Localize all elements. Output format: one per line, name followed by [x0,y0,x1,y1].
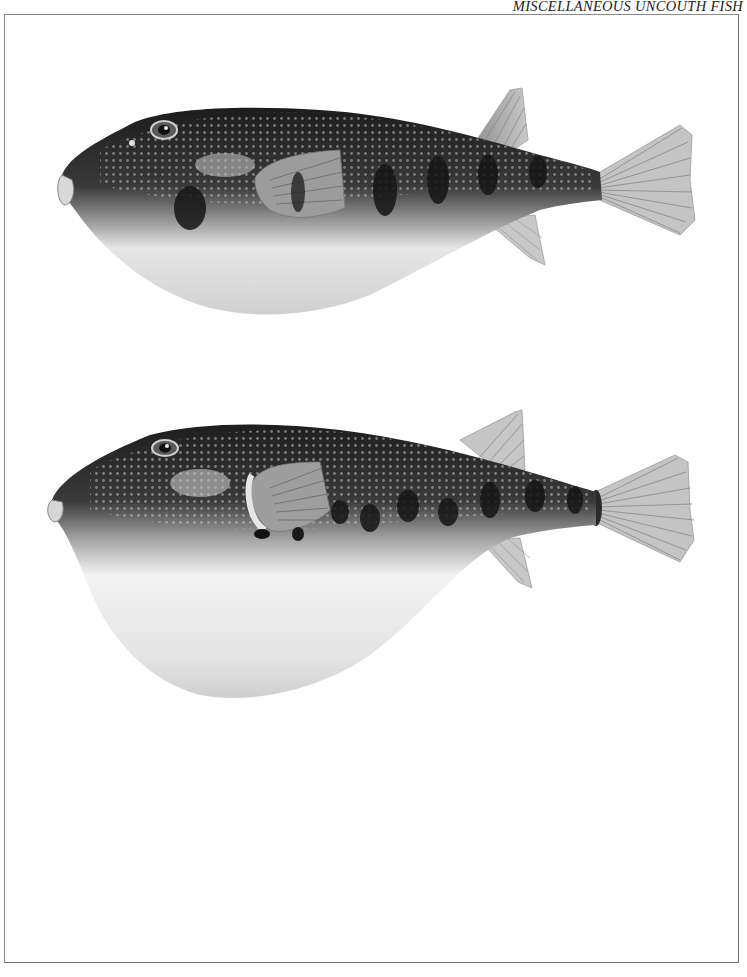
mouth [48,500,63,522]
running-head: MISCELLANEOUS UNCOUTH FISH [513,0,743,15]
tail-fin [595,455,694,562]
mouth [58,175,74,205]
tail-fin [595,125,695,235]
pufferfish-illustration-deflated [40,80,710,330]
pufferfish-illustration-inflated [30,400,710,710]
